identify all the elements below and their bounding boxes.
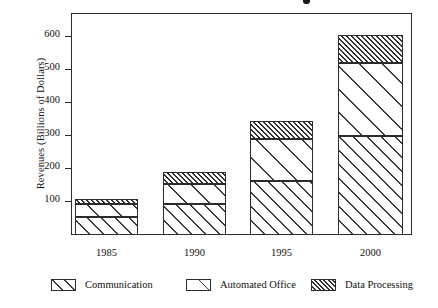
y-tick-500: 500 (0, 69, 71, 70)
y-tick-label: 500 (44, 61, 60, 72)
legend-item-data-processing: Data Processing (311, 279, 413, 291)
x-tick-label-1995: 1995 (250, 247, 313, 258)
legend-swatch-automated-office-icon (186, 279, 211, 291)
y-tick-label: 300 (44, 127, 60, 138)
y-tick-label: 400 (44, 94, 60, 105)
legend-swatch-data-processing-icon (311, 279, 336, 291)
y-tick-200: 200 (0, 168, 71, 169)
y-tick-100: 100 (0, 201, 71, 202)
y-tick-600: 600 (0, 36, 71, 37)
legend-label-data-processing: Data Processing (345, 279, 413, 291)
chart-legend: Communication Automated Office Data Proc… (0, 279, 438, 299)
plot-frame (71, 13, 412, 235)
legend-label-automated-office: Automated Office (220, 279, 296, 291)
crop-artifact (303, 0, 310, 4)
legend-swatch-communication-icon (51, 279, 76, 291)
y-tick-300: 300 (0, 135, 71, 136)
legend-item-communication: Communication (51, 279, 153, 291)
x-tick-label-2000: 2000 (338, 247, 403, 258)
x-tick-label-1990: 1990 (163, 247, 226, 258)
x-tick-label-1985: 1985 (75, 247, 138, 258)
legend-item-automated-office: Automated Office (186, 279, 296, 291)
legend-label-communication: Communication (85, 279, 153, 291)
y-tick-400: 400 (0, 102, 71, 103)
y-tick-label: 100 (44, 193, 60, 204)
y-tick-label: 200 (44, 160, 60, 171)
chart-figure: Revenues (Billions of Dollars) 100 200 3… (0, 0, 438, 308)
y-tick-label: 600 (44, 28, 60, 39)
